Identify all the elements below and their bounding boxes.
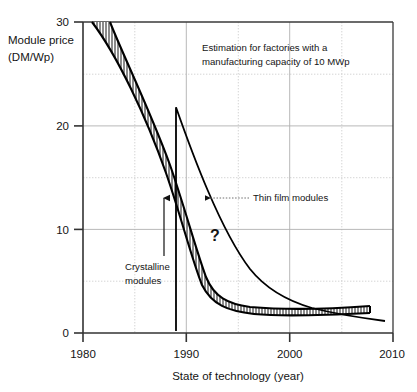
thin-film-modules-label: Thin film modules	[253, 192, 328, 203]
x-axis-title: State of technology (year)	[172, 370, 304, 382]
y-axis-title-line1: Module price	[8, 34, 74, 46]
y-axis-title-line2: (DM/Wp)	[8, 51, 54, 63]
x-tick-label-1980: 1980	[70, 348, 96, 360]
estimation-note-line2: manufacturing capacity of 10 MWp	[202, 56, 350, 67]
x-tick-label-2000: 2000	[277, 348, 303, 360]
y-tick-label-0: 0	[63, 327, 69, 339]
estimation-note-line1: Estimation for factories with a	[202, 42, 328, 53]
module-price-chart: 30 20 10 0 1980 1990 2000 2010 Module pr…	[0, 0, 417, 392]
uncertainty-question-mark: ?	[210, 227, 220, 244]
x-axis-ticks	[83, 333, 393, 342]
crystalline-modules-label-line2: modules	[125, 275, 161, 286]
y-axis-ticks	[74, 22, 83, 333]
x-tick-label-2010: 2010	[379, 348, 405, 360]
x-tick-label-1990: 1990	[174, 348, 200, 360]
y-tick-label-30: 30	[56, 16, 69, 28]
y-tick-label-20: 20	[56, 120, 69, 132]
y-tick-label-10: 10	[56, 224, 69, 236]
crystalline-modules-label-line1: Crystalline	[125, 261, 170, 272]
chart-page: 30 20 10 0 1980 1990 2000 2010 Module pr…	[0, 0, 417, 392]
